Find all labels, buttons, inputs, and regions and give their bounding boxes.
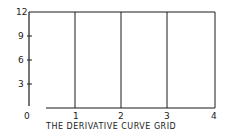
x-label-1: 1: [73, 112, 79, 121]
y-label-3: 3: [18, 80, 24, 89]
chart-title: THE DERIVATIVE CURVE GRID: [46, 122, 176, 131]
x-label-2: 2: [118, 112, 124, 121]
y-label-12: 12: [16, 8, 27, 17]
x-label-4: 4: [211, 112, 217, 121]
y-label-6: 6: [18, 56, 24, 65]
x-label-3: 3: [164, 112, 170, 121]
chart-plot-area: [0, 0, 226, 135]
y-label-9: 9: [18, 32, 24, 41]
x-label-0: 0: [24, 112, 30, 121]
